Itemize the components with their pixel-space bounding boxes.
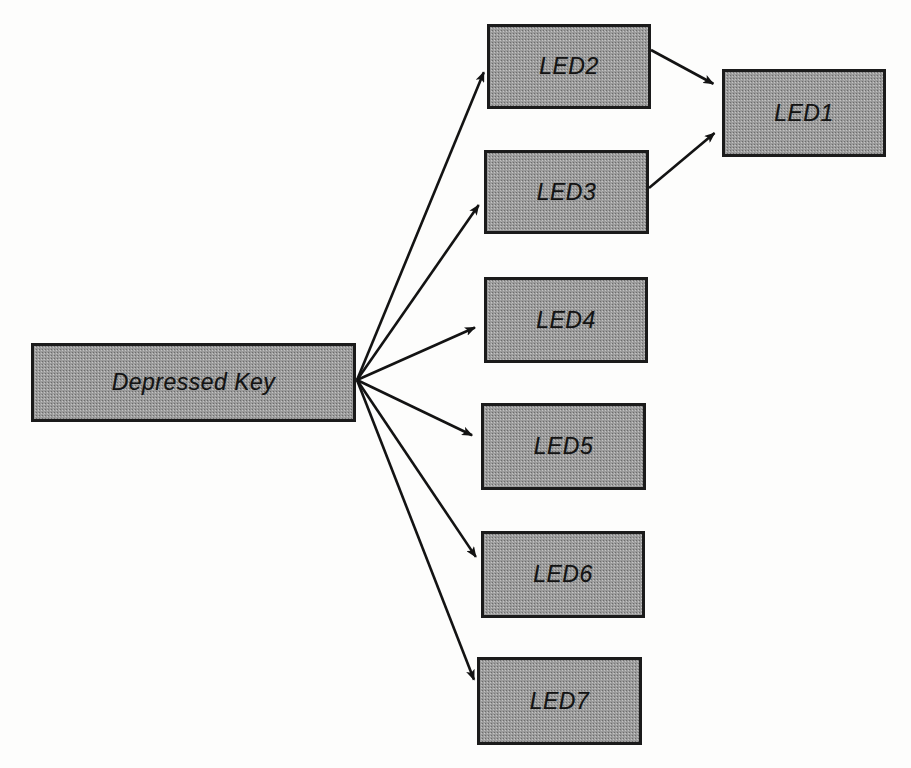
edge-source-led4 [357,327,475,380]
edge-source-led7 [357,380,474,680]
node-led7[interactable]: LED7 [477,657,642,745]
edge-led2-led1 [651,50,713,84]
node-led5[interactable]: LED5 [481,403,646,490]
node-label-led5: LED5 [534,433,594,460]
node-label-led1: LED1 [774,100,834,127]
node-led3[interactable]: LED3 [484,150,649,234]
node-led2[interactable]: LED2 [487,24,651,109]
node-label-led6: LED6 [533,561,593,588]
edge-source-led6 [357,380,476,557]
node-led1[interactable]: LED1 [722,69,886,157]
diagram-canvas: Depressed Key LED2 LED1 LED3 LED4 LED5 L… [0,0,911,768]
node-label-led7: LED7 [530,688,590,715]
node-label-led4: LED4 [536,307,596,334]
edge-source-led5 [357,380,472,435]
node-led6[interactable]: LED6 [481,531,645,618]
node-label-depressed-key: Depressed Key [112,369,276,396]
node-led4[interactable]: LED4 [484,277,648,363]
node-depressed-key[interactable]: Depressed Key [31,343,356,422]
node-label-led2: LED2 [539,53,599,80]
node-label-led3: LED3 [537,179,597,206]
edge-led3-led1 [649,133,715,188]
edge-source-led3 [357,205,479,380]
edge-source-led2 [357,72,484,380]
